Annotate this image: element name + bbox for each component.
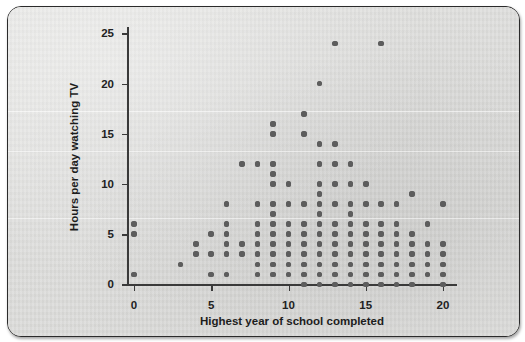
data-point <box>332 231 338 237</box>
data-point <box>317 241 323 247</box>
data-point <box>348 231 354 237</box>
data-point <box>301 221 307 227</box>
y-axis-title-text: Hours per day watching TV <box>68 82 80 230</box>
data-point <box>301 131 307 137</box>
y-tick-25: 25 <box>122 33 127 34</box>
data-point <box>193 251 199 257</box>
data-point <box>239 251 245 257</box>
data-point <box>440 251 446 257</box>
data-point <box>409 231 415 237</box>
data-point <box>348 221 354 227</box>
y-tick-label-5: 5 <box>108 228 114 240</box>
data-point <box>332 262 338 268</box>
y-axis-title: Hours per day watching TV <box>66 27 82 286</box>
data-point <box>270 231 276 237</box>
data-point <box>425 262 431 268</box>
data-point <box>378 272 384 278</box>
x-tick-label-10: 10 <box>282 299 295 311</box>
data-point <box>224 251 230 257</box>
data-point <box>378 251 384 257</box>
data-point <box>332 282 338 288</box>
data-point <box>363 201 369 207</box>
data-point <box>270 262 276 268</box>
data-point <box>270 121 276 127</box>
data-point <box>208 272 214 278</box>
data-point <box>255 272 261 278</box>
data-point <box>301 262 307 268</box>
scatter-plot-area: 0510152025 05101520 <box>127 27 457 286</box>
y-tick-10: 10 <box>122 184 127 185</box>
data-point <box>301 201 307 207</box>
data-point <box>255 221 261 227</box>
data-point <box>363 221 369 227</box>
y-tick-15: 15 <box>122 134 127 135</box>
data-point <box>425 221 431 227</box>
data-point <box>425 251 431 257</box>
x-tick-label-20: 20 <box>437 299 450 311</box>
data-point <box>239 241 245 247</box>
data-point <box>286 262 292 268</box>
data-point <box>131 231 137 237</box>
data-point <box>363 251 369 257</box>
data-point <box>286 272 292 278</box>
data-point <box>440 201 446 207</box>
data-point <box>332 221 338 227</box>
x-tick-label-5: 5 <box>208 299 214 311</box>
data-point <box>440 282 446 288</box>
data-point <box>301 282 307 288</box>
data-point <box>348 262 354 268</box>
data-point <box>317 211 323 217</box>
scanned-figure-card: Hours per day watching TV 0510152025 051… <box>7 6 520 337</box>
data-point <box>332 201 338 207</box>
data-point <box>317 251 323 257</box>
data-point <box>255 231 261 237</box>
data-point <box>239 161 245 167</box>
data-point <box>332 181 338 187</box>
y-axis-line <box>127 27 129 286</box>
data-point <box>348 181 354 187</box>
data-point <box>224 272 230 278</box>
data-point <box>178 262 184 268</box>
data-point <box>409 251 415 257</box>
data-point <box>425 241 431 247</box>
y-tick-label-20: 20 <box>101 78 114 90</box>
x-tick-label-15: 15 <box>359 299 372 311</box>
data-point <box>301 272 307 278</box>
y-tick-5: 5 <box>122 234 127 235</box>
data-point <box>378 282 384 288</box>
data-point <box>363 181 369 187</box>
data-point <box>301 241 307 247</box>
x-tick-5: 5 <box>211 286 212 291</box>
data-point <box>363 241 369 247</box>
data-point <box>270 211 276 217</box>
data-point <box>332 241 338 247</box>
data-point <box>348 282 354 288</box>
x-tick-0: 0 <box>134 286 135 291</box>
data-point <box>348 272 354 278</box>
data-point <box>394 282 400 288</box>
y-tick-20: 20 <box>122 84 127 85</box>
data-point <box>224 221 230 227</box>
data-point <box>378 241 384 247</box>
data-point <box>378 221 384 227</box>
data-point <box>208 251 214 257</box>
data-point <box>317 141 323 147</box>
data-point <box>332 251 338 257</box>
data-point <box>409 282 415 288</box>
data-point <box>394 251 400 257</box>
data-point <box>270 131 276 137</box>
data-point <box>348 211 354 217</box>
data-point <box>193 241 199 247</box>
data-point <box>317 231 323 237</box>
y-tick-label-15: 15 <box>101 128 114 140</box>
data-point <box>378 201 384 207</box>
data-point <box>270 241 276 247</box>
data-point <box>425 272 431 278</box>
data-point <box>286 181 292 187</box>
data-point <box>394 241 400 247</box>
data-point <box>332 272 338 278</box>
data-point <box>394 221 400 227</box>
data-point <box>378 231 384 237</box>
data-point <box>394 201 400 207</box>
data-point <box>317 201 323 207</box>
